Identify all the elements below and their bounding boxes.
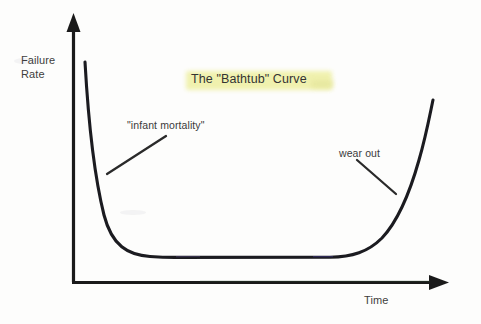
leader-line-wear-out bbox=[357, 160, 396, 194]
bathtub-curve-figure: FailureRate Time The "Bathtub" Curve "in… bbox=[0, 0, 481, 324]
x-axis-label: Time bbox=[364, 294, 388, 306]
title-highlighter-smear bbox=[311, 80, 333, 88]
y-axis-label-line2: Rate bbox=[21, 68, 45, 80]
chart-title-group: The "Bathtub" Curve bbox=[186, 70, 334, 92]
y-axis-arrow-icon bbox=[67, 13, 81, 32]
annotation-wear-out: wear out bbox=[339, 147, 380, 159]
y-axis-label: FailureRate bbox=[21, 54, 55, 81]
leader-line-infant-mortality bbox=[107, 136, 166, 174]
annotation-infant-mortality: "infant mortality" bbox=[127, 119, 205, 131]
chart-title: The "Bathtub" Curve bbox=[191, 72, 307, 86]
chart-canvas bbox=[0, 0, 481, 324]
y-axis-label-line1: Failure bbox=[21, 54, 55, 66]
x-axis-arrow-icon bbox=[429, 275, 449, 290]
